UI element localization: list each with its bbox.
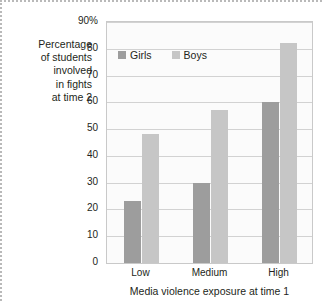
legend-label-girls: Girls — [130, 49, 152, 61]
legend-item-girls: Girls — [118, 49, 152, 61]
bar-boys-high — [280, 43, 297, 263]
bar-girls-high — [262, 102, 279, 263]
bar-boys-medium — [211, 110, 228, 263]
y-tick-label: 10 — [64, 229, 98, 240]
x-tick-label-low: Low — [106, 267, 176, 278]
gridline — [107, 263, 312, 264]
bar-girls-low — [124, 201, 141, 263]
legend-item-boys: Boys — [172, 49, 207, 61]
y-tick-label: 40 — [64, 149, 98, 160]
legend-swatch-boys-icon — [172, 51, 180, 59]
bar-group-high — [262, 22, 297, 263]
chart-legend: Girls Boys — [118, 49, 207, 61]
y-tick-label: 20 — [64, 202, 98, 213]
y-tick-label: 50 — [64, 122, 98, 133]
x-axis-title: Media violence exposure at time 1 — [106, 285, 313, 297]
chart-figure: Percentage of students involved in fight… — [0, 0, 322, 301]
bar-girls-medium — [193, 183, 210, 263]
y-tick-label: 80 — [64, 42, 98, 53]
legend-label-boys: Boys — [184, 49, 207, 61]
legend-swatch-girls-icon — [118, 51, 126, 59]
y-tick-label: 0 — [64, 256, 98, 267]
y-tick-label: 30 — [64, 176, 98, 187]
y-tick-label: 60 — [64, 95, 98, 106]
x-tick-label-medium: Medium — [175, 267, 245, 278]
x-tick-label-high: High — [244, 267, 314, 278]
y-tick-label: 90% — [64, 15, 98, 26]
bar-boys-low — [142, 134, 159, 263]
y-tick-label: 70 — [64, 69, 98, 80]
